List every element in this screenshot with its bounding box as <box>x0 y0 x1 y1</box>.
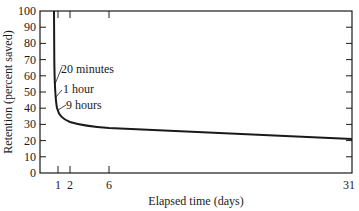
curve-annotations: 20 minutes 1 hour 9 hours <box>55 62 114 112</box>
svg-text:1: 1 <box>55 178 61 192</box>
y-axis-title: Retention (percent saved) <box>1 30 15 153</box>
annotation-20-minutes: 20 minutes <box>61 62 114 76</box>
y-axis-ticks-right <box>346 27 352 157</box>
x-axis-title: Elapsed time (days) <box>148 194 243 208</box>
annotation-1-hour: 1 hour <box>63 82 94 96</box>
y-axis-ticks-left <box>40 27 46 157</box>
svg-text:50: 50 <box>24 85 36 99</box>
y-axis-tick-labels: 100 90 80 70 60 50 40 30 20 10 0 <box>18 4 36 180</box>
annotation-leader-9hours <box>58 105 66 110</box>
retention-chart: 100 90 80 70 60 50 40 30 20 10 0 1 2 6 3… <box>0 0 359 211</box>
svg-text:10: 10 <box>24 150 36 164</box>
svg-text:60: 60 <box>24 69 36 83</box>
x-axis-ticks-bottom <box>58 166 109 173</box>
svg-text:70: 70 <box>24 53 36 67</box>
svg-text:30: 30 <box>24 117 36 131</box>
svg-text:40: 40 <box>24 101 36 115</box>
x-axis-ticks-top <box>58 11 109 18</box>
x-axis-tick-labels: 1 2 6 31 <box>55 178 355 192</box>
svg-text:90: 90 <box>24 20 36 34</box>
svg-text:31: 31 <box>343 178 355 192</box>
annotation-leader-1hour <box>56 90 62 97</box>
svg-text:20: 20 <box>24 134 36 148</box>
svg-text:6: 6 <box>106 178 112 192</box>
svg-text:2: 2 <box>67 178 73 192</box>
annotation-9-hours: 9 hours <box>66 98 102 112</box>
svg-text:0: 0 <box>30 166 36 180</box>
svg-text:80: 80 <box>24 36 36 50</box>
svg-text:100: 100 <box>18 4 36 18</box>
